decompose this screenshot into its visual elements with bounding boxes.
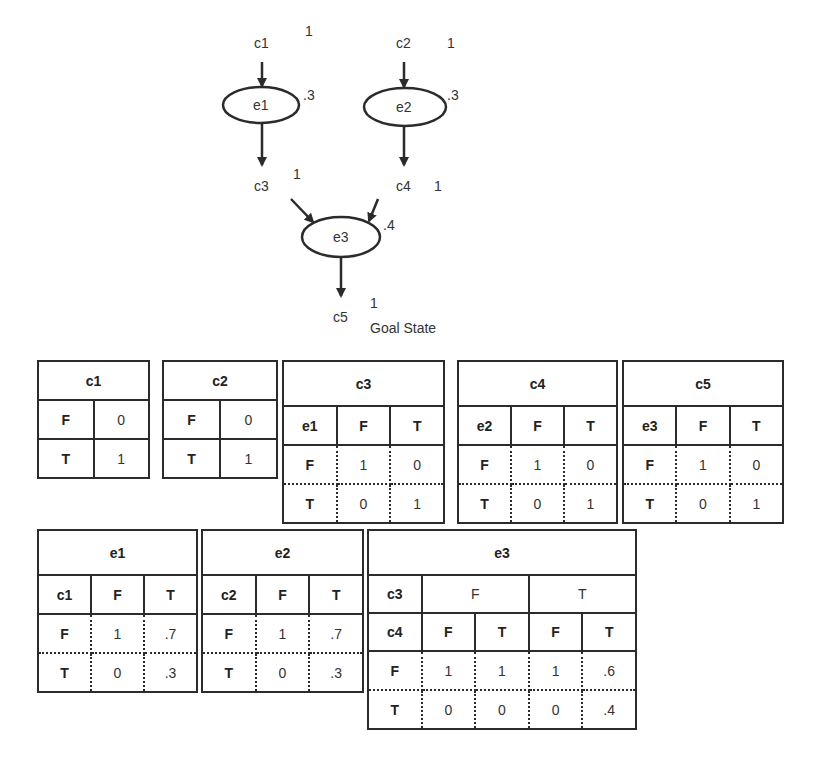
col-header: F bbox=[529, 613, 583, 651]
node-prob-e1: .3 bbox=[303, 88, 315, 102]
cpt-table-c3: c3 e1FT F10 T01 bbox=[282, 360, 445, 524]
prob-cell: 1 bbox=[220, 439, 277, 478]
causal-graph bbox=[0, 0, 815, 340]
edge-c4-e3 bbox=[369, 199, 378, 221]
state-label: T bbox=[623, 484, 676, 523]
parent1-value: F bbox=[422, 575, 529, 613]
node-prob-c1: 1 bbox=[305, 24, 313, 38]
parent-label: e3 bbox=[623, 406, 676, 445]
cpt-table-e2: e2 c2FT F1.7 T0.3 bbox=[201, 529, 364, 693]
prob-cell: 0 bbox=[256, 653, 310, 692]
node-label-c3: c3 bbox=[254, 179, 269, 193]
state-label: F bbox=[623, 445, 676, 484]
parent2-label: c4 bbox=[368, 613, 422, 651]
col-header: T bbox=[475, 613, 529, 651]
table-title: e1 bbox=[38, 530, 197, 575]
prob-cell: 0 bbox=[511, 484, 564, 523]
prob-cell: .6 bbox=[582, 651, 636, 690]
state-label: F bbox=[202, 614, 256, 653]
state-label: F bbox=[283, 445, 337, 484]
table-title: c5 bbox=[623, 361, 783, 406]
prob-cell: 0 bbox=[390, 445, 444, 484]
prob-cell: 0 bbox=[564, 445, 617, 484]
cpt-table-c4: c4 e2FT F10 T01 bbox=[457, 360, 618, 524]
state-label: T bbox=[38, 653, 91, 692]
prob-cell: 0 bbox=[94, 400, 150, 439]
prob-cell: 0 bbox=[529, 690, 583, 729]
col-header: F bbox=[422, 613, 476, 651]
table-title: c1 bbox=[38, 361, 149, 400]
prob-cell: 0 bbox=[337, 484, 391, 523]
prob-cell: .7 bbox=[309, 614, 363, 653]
col-header: T bbox=[309, 575, 363, 614]
node-label-e2: e2 bbox=[396, 100, 412, 114]
prob-cell: 1 bbox=[390, 484, 444, 523]
state-label: T bbox=[283, 484, 337, 523]
node-prob-e3: .4 bbox=[383, 218, 395, 232]
prob-cell: 0 bbox=[676, 484, 729, 523]
node-label-c4: c4 bbox=[396, 179, 411, 193]
edge-c3-e3 bbox=[291, 199, 313, 222]
prob-cell: 1 bbox=[256, 614, 310, 653]
state-label: F bbox=[38, 400, 94, 439]
prob-cell: 0 bbox=[91, 653, 144, 692]
state-label: T bbox=[163, 439, 220, 478]
table-title: c2 bbox=[163, 361, 277, 400]
cpt-table-c1: c1 F0 T1 bbox=[37, 360, 150, 479]
state-label: T bbox=[202, 653, 256, 692]
cpt-table-e3: e3 c3 F T c4 F T F T F 1 1 1 .6 T 0 0 0 … bbox=[367, 529, 637, 730]
prob-cell: 0 bbox=[220, 400, 277, 439]
col-header: T bbox=[144, 575, 197, 614]
cpt-table-e1: e1 c1FT F1.7 T0.3 bbox=[37, 529, 198, 693]
prob-cell: 0 bbox=[475, 690, 529, 729]
col-header: F bbox=[256, 575, 310, 614]
prob-cell: 0 bbox=[422, 690, 476, 729]
node-prob-c4: 1 bbox=[434, 179, 442, 193]
node-prob-c5: 1 bbox=[370, 296, 378, 310]
table-title: e3 bbox=[368, 530, 636, 575]
col-header: F bbox=[337, 406, 391, 445]
prob-cell: 1 bbox=[422, 651, 476, 690]
prob-cell: 1 bbox=[730, 484, 783, 523]
state-label: F bbox=[368, 651, 422, 690]
col-header: F bbox=[511, 406, 564, 445]
node-label-e1: e1 bbox=[253, 98, 269, 112]
parent-label: e1 bbox=[283, 406, 337, 445]
parent-label: e2 bbox=[458, 406, 511, 445]
prob-cell: .3 bbox=[144, 653, 197, 692]
node-prob-c2: 1 bbox=[447, 36, 455, 50]
goal-state-label: Goal State bbox=[370, 321, 436, 335]
state-label: T bbox=[38, 439, 94, 478]
node-label-e3: e3 bbox=[333, 230, 349, 244]
prob-cell: 0 bbox=[730, 445, 783, 484]
prob-cell: 1 bbox=[511, 445, 564, 484]
prob-cell: 1 bbox=[94, 439, 150, 478]
prob-cell: 1 bbox=[529, 651, 583, 690]
state-label: F bbox=[163, 400, 220, 439]
node-prob-e2: .3 bbox=[447, 88, 459, 102]
cpt-table-c2: c2 F0 T1 bbox=[162, 360, 278, 479]
prob-cell: 1 bbox=[676, 445, 729, 484]
state-label: T bbox=[368, 690, 422, 729]
prob-cell: .7 bbox=[144, 614, 197, 653]
prob-cell: 1 bbox=[91, 614, 144, 653]
parent1-value: T bbox=[529, 575, 636, 613]
table-title: c3 bbox=[283, 361, 444, 406]
state-label: T bbox=[458, 484, 511, 523]
parent-label: c2 bbox=[202, 575, 256, 614]
state-label: F bbox=[458, 445, 511, 484]
col-header: T bbox=[730, 406, 783, 445]
node-label-c2: c2 bbox=[396, 36, 411, 50]
table-title: c4 bbox=[458, 361, 617, 406]
col-header: F bbox=[676, 406, 729, 445]
col-header: F bbox=[91, 575, 144, 614]
col-header: T bbox=[390, 406, 444, 445]
prob-cell: 1 bbox=[337, 445, 391, 484]
node-prob-c3: 1 bbox=[293, 167, 301, 181]
state-label: F bbox=[38, 614, 91, 653]
col-header: T bbox=[564, 406, 617, 445]
cpt-table-c5: c5 e3FT F10 T01 bbox=[622, 360, 784, 524]
prob-cell: 1 bbox=[564, 484, 617, 523]
prob-cell: .4 bbox=[582, 690, 636, 729]
node-label-c1: c1 bbox=[254, 36, 269, 50]
